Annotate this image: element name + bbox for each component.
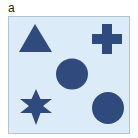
shapes-canvas [0,0,138,138]
circle-icon-bottom-right [92,92,124,124]
circle-icon-center [56,59,88,90]
